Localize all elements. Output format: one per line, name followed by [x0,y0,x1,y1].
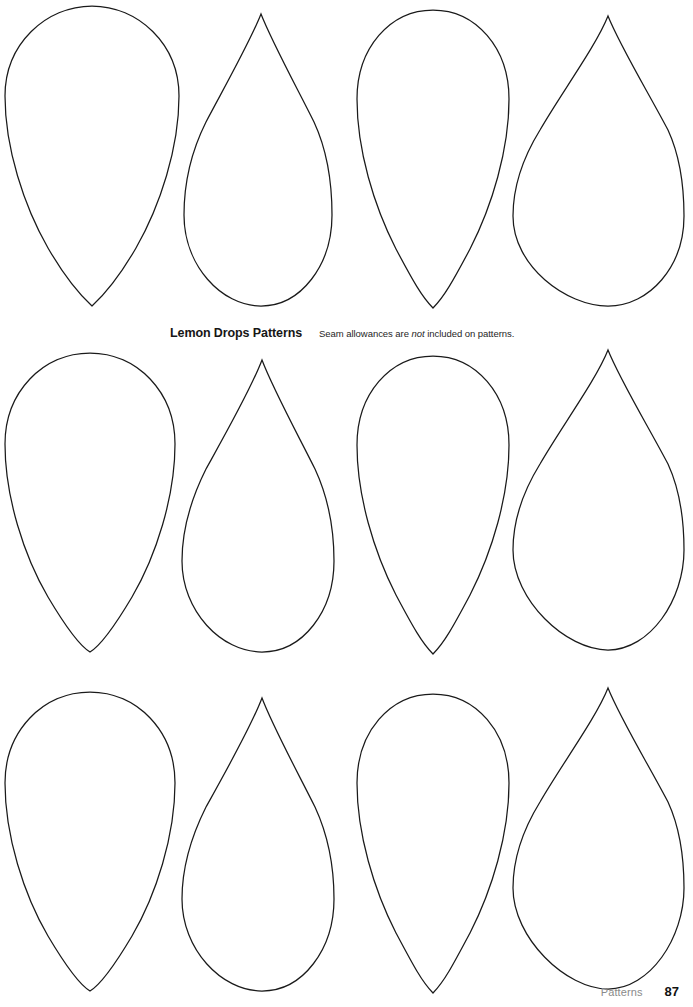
pattern-page: Lemon Drops Patterns Seam allowances are… [0,0,693,1007]
teardrop-shape-r3c1 [5,692,175,991]
caption-note-after: included on patterns. [425,328,515,339]
pattern-caption-title: Lemon Drops Patterns [170,326,302,340]
teardrop-shape-r2c4 [513,350,684,650]
teardrop-shape-r3c2 [182,698,334,991]
teardrop-shape-r2c3 [357,356,509,654]
teardrop-shape-r1c3 [357,10,509,308]
caption-note-before: Seam allowances are [319,328,411,339]
teardrop-shape-r2c1 [5,353,175,652]
pattern-caption-note: Seam allowances are not included on patt… [319,328,514,339]
page-footer: Patterns 87 [601,984,679,999]
teardrop-shape-r3c4 [513,688,684,989]
pattern-shapes-canvas [0,0,693,1007]
teardrop-shape-r2c2 [182,360,334,652]
teardrop-shape-r1c4 [513,16,684,306]
footer-page-number: 87 [665,984,679,999]
footer-section-label: Patterns [601,986,643,998]
pattern-caption: Lemon Drops Patterns Seam allowances are… [170,326,514,346]
teardrop-shape-r3c3 [357,694,509,993]
caption-note-emphasis: not [412,328,425,339]
teardrop-shape-r1c1 [5,6,179,306]
teardrop-shape-r1c2 [184,14,332,306]
